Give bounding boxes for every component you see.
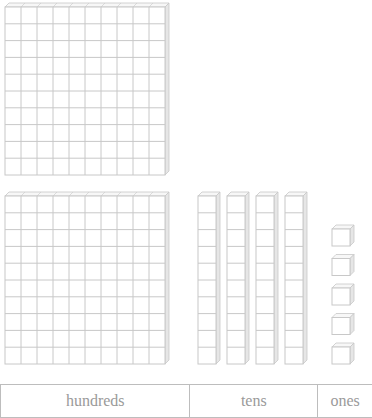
ten-rod bbox=[198, 192, 220, 364]
ones-column-label: ones bbox=[317, 385, 372, 417]
one-cube bbox=[332, 225, 354, 246]
ten-rod bbox=[256, 192, 278, 364]
one-cube bbox=[332, 314, 354, 335]
hundred-flat bbox=[5, 192, 169, 364]
one-cube bbox=[332, 284, 354, 305]
base-ten-blocks-figure bbox=[0, 0, 370, 384]
hundred-flat bbox=[5, 3, 169, 175]
tens-column-label: tens bbox=[189, 385, 317, 417]
hundreds-column-label: hundreds bbox=[0, 385, 189, 417]
ten-rod bbox=[285, 192, 307, 364]
ten-rod bbox=[227, 192, 249, 364]
one-cube bbox=[332, 255, 354, 276]
one-cube bbox=[332, 343, 354, 364]
place-value-table: hundreds tens ones bbox=[0, 384, 372, 418]
